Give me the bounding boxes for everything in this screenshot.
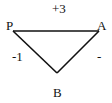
edge-label-a-b: - [97, 50, 101, 63]
signed-triangle-diagram: +3 P A -1 - B [0, 0, 112, 103]
node-label-b: B [53, 86, 62, 99]
node-label-a: A [97, 19, 106, 32]
edge-label-p-a: +3 [52, 2, 66, 15]
edge-label-p-b: -1 [12, 50, 23, 63]
node-label-p: P [6, 19, 13, 32]
edge-a-b [57, 31, 99, 73]
